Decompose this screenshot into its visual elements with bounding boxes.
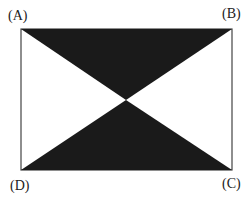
label-b: (B) (222, 6, 241, 22)
label-c: (C) (222, 176, 241, 192)
label-d: (D) (10, 178, 29, 194)
label-a: (A) (8, 8, 27, 24)
rectangle-diagram (0, 0, 252, 204)
